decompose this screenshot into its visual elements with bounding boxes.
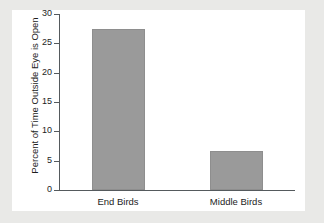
chart-panel: Percent of Time Outside Eye is Open 0510… (12, 10, 305, 211)
y-tick-label: 25 (12, 38, 60, 47)
y-tick-label: 30 (12, 9, 60, 18)
x-axis-line (59, 190, 295, 191)
y-tick-label: 5 (12, 156, 60, 165)
bar (92, 29, 145, 190)
y-tick-label: 20 (12, 68, 60, 77)
y-tick-label: 10 (12, 126, 60, 135)
x-tick-label: End Birds (58, 196, 178, 207)
x-tick-label: Middle Birds (176, 196, 296, 207)
y-tick-label: 0 (12, 185, 60, 194)
bar (210, 151, 263, 190)
y-tick-label: 15 (12, 97, 60, 106)
